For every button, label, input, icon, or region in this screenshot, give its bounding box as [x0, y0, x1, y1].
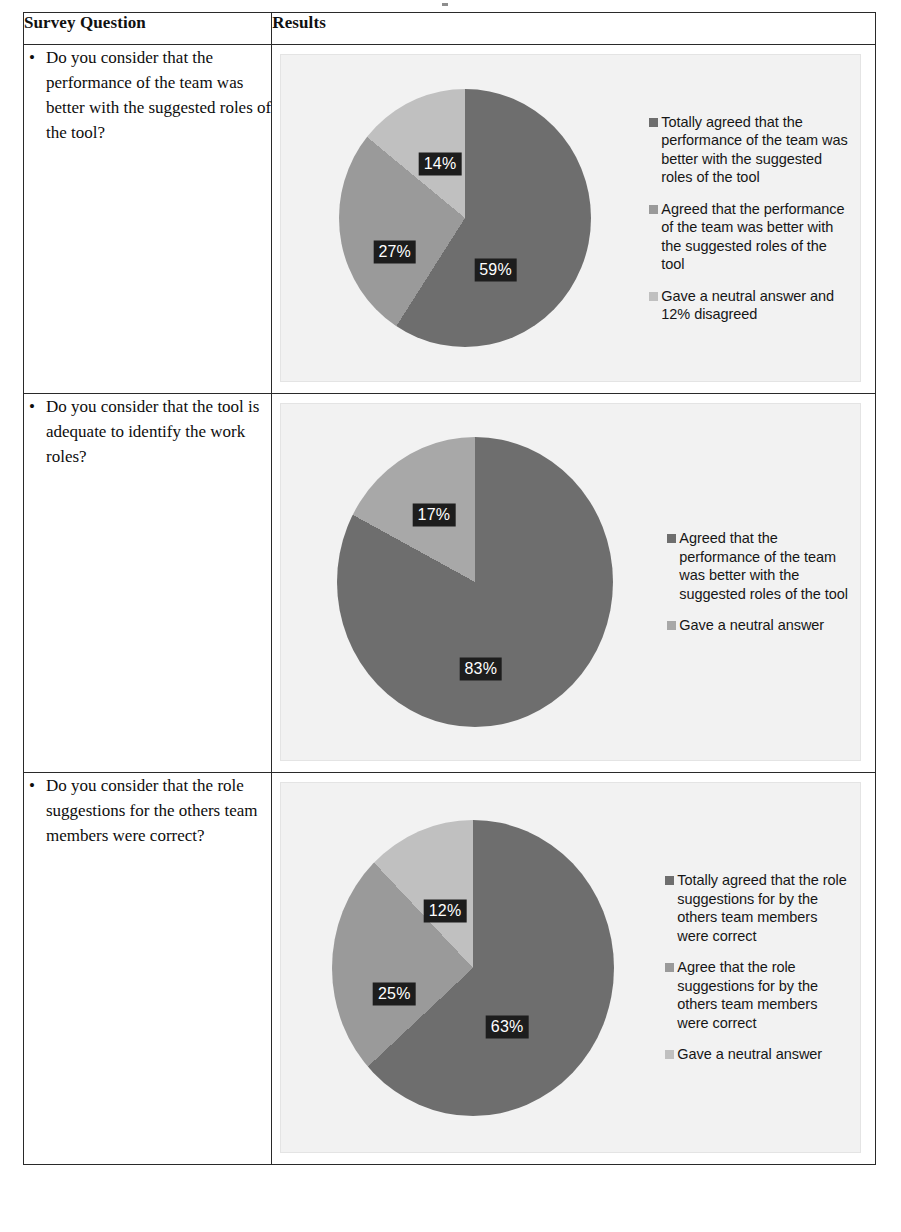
question-text: Do you consider that the role suggestion…	[46, 776, 258, 845]
legend-1: Totally agreed that the performance of t…	[643, 113, 860, 324]
table-row: • Do you consider that the performance o…	[24, 45, 876, 394]
pie-chart-2: 83% 17% Agreed that the performance of t…	[280, 403, 861, 761]
bullet-icon: •	[29, 773, 35, 798]
results-cell-3: 63% 25% 12% Totally agreed that the role…	[272, 773, 876, 1165]
pie-plot-area-3: 63% 25% 12%	[287, 820, 659, 1116]
table-row: • Do you consider that the tool is adequ…	[24, 394, 876, 773]
list-item: • Do you consider that the role suggesti…	[24, 773, 271, 848]
legend-swatch-icon	[665, 1050, 674, 1059]
legend-item: Agreed that the performance of the team …	[667, 529, 850, 603]
question-text: Do you consider that the tool is adequat…	[46, 397, 259, 466]
legend-swatch-icon	[665, 963, 674, 972]
question-text: Do you consider that the performance of …	[46, 48, 271, 142]
legend-label: Gave a neutral answer and 12% disagreed	[661, 287, 850, 324]
legend-item: Agreed that the performance of the team …	[649, 200, 850, 274]
table-row: • Do you consider that the role suggesti…	[24, 773, 876, 1165]
legend-swatch-icon	[667, 621, 676, 630]
slice-label-83: 83%	[459, 658, 502, 681]
slice-label-14: 14%	[419, 152, 462, 175]
legend-2: Agreed that the performance of the team …	[661, 529, 860, 635]
legend-item: Gave a neutral answer and 12% disagreed	[649, 287, 850, 324]
legend-item: Agree that the role suggestions for by t…	[665, 958, 850, 1032]
legend-label: Agree that the role suggestions for by t…	[677, 958, 850, 1032]
slice-label-27: 27%	[373, 240, 416, 263]
legend-label: Gave a neutral answer	[679, 616, 824, 635]
list-item: • Do you consider that the performance o…	[24, 45, 271, 145]
bullet-icon: •	[29, 45, 35, 70]
pie-graphic-2: 83% 17%	[337, 437, 613, 727]
legend-swatch-icon	[665, 876, 674, 885]
pie-plot-area-2: 83% 17%	[289, 437, 661, 727]
document-page: Survey Question Results • Do you conside…	[0, 0, 901, 1232]
list-item: • Do you consider that the tool is adequ…	[24, 394, 271, 469]
legend-swatch-icon	[649, 205, 658, 214]
question-list-3: • Do you consider that the role suggesti…	[24, 773, 271, 848]
question-cell-3: • Do you consider that the role suggesti…	[24, 773, 272, 1165]
survey-results-table: Survey Question Results • Do you conside…	[23, 12, 876, 1165]
legend-swatch-icon	[649, 292, 658, 301]
legend-label: Agreed that the performance of the team …	[661, 200, 850, 274]
legend-item: Gave a neutral answer	[665, 1045, 850, 1064]
question-list-2: • Do you consider that the tool is adequ…	[24, 394, 271, 469]
legend-label: Totally agreed that the performance of t…	[661, 113, 850, 187]
question-cell-1: • Do you consider that the performance o…	[24, 45, 272, 394]
slice-label-12: 12%	[424, 900, 467, 923]
legend-item: Totally agreed that the performance of t…	[649, 113, 850, 187]
results-cell-1: 59% 27% 14% Totally agreed that the perf…	[272, 45, 876, 394]
slice-label-59: 59%	[474, 258, 517, 281]
slice-label-63: 63%	[486, 1015, 529, 1038]
legend-swatch-icon	[649, 118, 658, 127]
pie-chart-3: 63% 25% 12% Totally agreed that the role…	[280, 782, 861, 1153]
page-artifact-mark	[442, 3, 448, 6]
legend-label: Agreed that the performance of the team …	[679, 529, 850, 603]
pie-plot-area-1: 59% 27% 14%	[287, 89, 643, 347]
legend-label: Totally agreed that the role suggestions…	[677, 871, 850, 945]
legend-3: Totally agreed that the role suggestions…	[659, 871, 860, 1064]
slice-label-17: 17%	[413, 504, 456, 527]
question-cell-2: • Do you consider that the tool is adequ…	[24, 394, 272, 773]
question-list-1: • Do you consider that the performance o…	[24, 45, 271, 145]
pie-graphic-1: 59% 27% 14%	[339, 89, 591, 347]
legend-item: Gave a neutral answer	[667, 616, 850, 635]
column-header-results: Results	[272, 13, 876, 45]
legend-item: Totally agreed that the role suggestions…	[665, 871, 850, 945]
legend-label: Gave a neutral answer	[677, 1045, 822, 1064]
column-header-survey-question: Survey Question	[24, 13, 272, 45]
slice-label-25: 25%	[373, 983, 416, 1006]
pie-graphic-3: 63% 25% 12%	[332, 820, 614, 1116]
results-cell-2: 83% 17% Agreed that the performance of t…	[272, 394, 876, 773]
pie-chart-1: 59% 27% 14% Totally agreed that the perf…	[280, 54, 861, 382]
legend-swatch-icon	[667, 534, 676, 543]
bullet-icon: •	[29, 394, 35, 419]
table-header-row: Survey Question Results	[24, 13, 876, 45]
